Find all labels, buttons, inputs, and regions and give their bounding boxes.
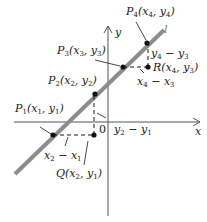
label-rise-2: y4 − y3 [151, 48, 189, 61]
label-r: R(x4, y3) [153, 62, 198, 75]
label-p2: P2(x2, y2) [48, 75, 97, 88]
point-p4 [144, 40, 149, 45]
label-rise-1: y2 − y1 [114, 124, 152, 137]
x-axis [14, 118, 200, 126]
point-r [145, 64, 150, 69]
label-p3: P3(x3, y3) [57, 45, 106, 58]
label-run-1: x2 − x1 [44, 150, 82, 163]
y-axis-label: y [115, 27, 121, 38]
x-axis-label: x [195, 126, 201, 137]
label-p4: P4(x4, y4) [126, 6, 175, 19]
origin-label: 0 [99, 124, 106, 135]
point-p1 [50, 132, 55, 137]
point-q [91, 132, 96, 137]
line-label: l [164, 24, 168, 35]
point-p2 [92, 91, 97, 96]
point-p3 [120, 64, 125, 69]
label-q: Q(x2, y1) [56, 168, 102, 181]
label-p1: P1(x1, y1) [15, 103, 64, 116]
label-run-2: x4 − x3 [137, 76, 175, 89]
